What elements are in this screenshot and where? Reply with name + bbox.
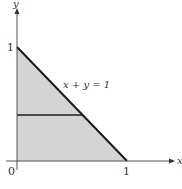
x-axis-label: x bbox=[177, 155, 182, 166]
x-tick-label: 1 bbox=[123, 165, 130, 178]
origin-label: 0 bbox=[8, 165, 15, 178]
y-axis-label: y bbox=[12, 0, 19, 9]
y-tick-label: 1 bbox=[7, 41, 14, 54]
diagram: y x 1 1 0 x + y = 1 bbox=[0, 0, 182, 189]
x-axis-arrow-icon bbox=[169, 159, 175, 164]
equation-label: x + y = 1 bbox=[63, 79, 110, 90]
